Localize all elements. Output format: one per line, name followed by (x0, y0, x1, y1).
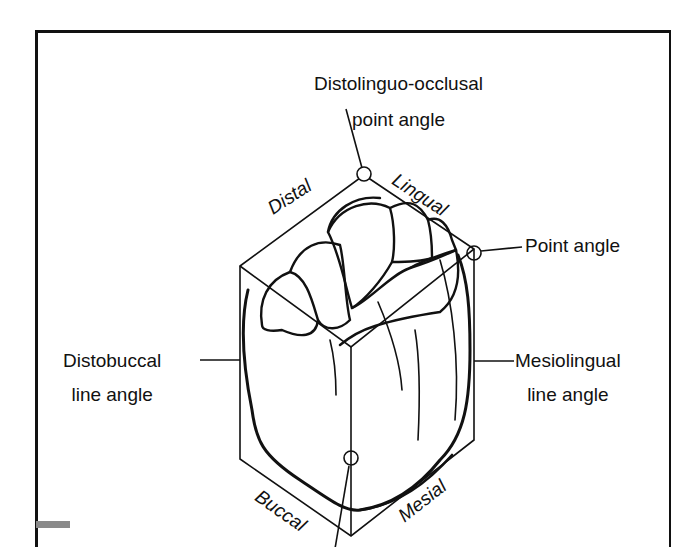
mesiolingual-label: Mesiolingual line angle (515, 350, 621, 406)
distobuccal-line1: Distobuccal (63, 350, 161, 372)
point-angle-circle-top (357, 167, 371, 181)
distolinguo-occlusal-line2: point angle (314, 109, 483, 131)
mesiolingual-line1: Mesiolingual (515, 350, 621, 372)
distobuccal-label: Distobuccal line angle (63, 350, 161, 406)
mesiolingual-line2: line angle (515, 384, 621, 406)
point-angle-label: Point angle (525, 235, 620, 257)
distolinguo-occlusal-label: Distolinguo-occlusal point angle (314, 73, 483, 131)
distobuccal-line2: line angle (63, 384, 161, 406)
distolinguo-occlusal-line1: Distolinguo-occlusal (314, 73, 483, 95)
figure-corner-mark (36, 521, 70, 528)
